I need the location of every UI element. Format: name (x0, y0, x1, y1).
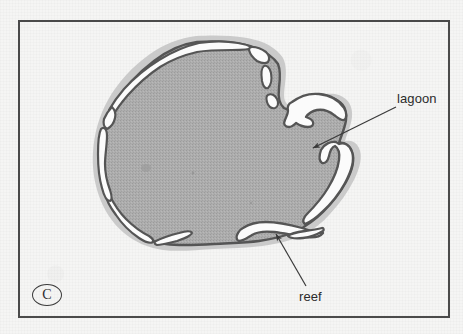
panel-letter-text: C (32, 284, 62, 306)
map-label-reef: reef (299, 289, 322, 304)
map-label-lagoon: lagoon (397, 91, 437, 106)
panel-letter-badge: C (32, 284, 62, 306)
figure-page: lagoon reef C (0, 0, 463, 334)
figure-border-frame (18, 20, 450, 318)
